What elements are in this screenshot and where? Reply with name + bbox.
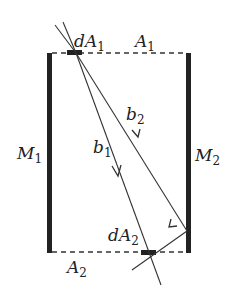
ray-b2-reflected [132, 231, 187, 270]
label-m2: M2 [194, 145, 220, 168]
label-a2: A2 [65, 257, 87, 280]
label-a1: A1 [133, 31, 155, 54]
mirror-m1 [47, 53, 52, 253]
ray-reflected-arrow-icon [169, 219, 177, 227]
mirror-m2 [186, 53, 191, 253]
label-da1: dA1 [74, 31, 105, 54]
light-pipe-diagram: dA1 A1 M1 M2 b1 b2 dA2 A2 [0, 0, 229, 300]
label-b2: b2 [126, 104, 145, 127]
label-m1: M1 [16, 143, 42, 166]
label-b1: b1 [93, 137, 112, 160]
ray-b1-arrow-icon [112, 165, 121, 176]
label-da2: dA2 [108, 225, 139, 248]
ray-b2-arrow-icon [132, 129, 140, 137]
